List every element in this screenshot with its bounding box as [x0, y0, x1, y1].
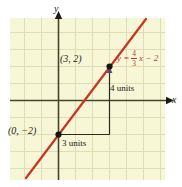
- plot-background: [10, 18, 165, 180]
- coordinate-graph-figure: [0, 0, 182, 187]
- slope-numerator: 4: [131, 50, 137, 58]
- equation-rhs: x − 2: [139, 54, 158, 63]
- point-label-0-neg2: (0, −2): [8, 126, 36, 136]
- point-0-neg2: [55, 131, 61, 137]
- slope-fraction: 4 3: [131, 50, 137, 67]
- y-axis-label: y: [54, 4, 58, 14]
- run-label: 3 units: [62, 139, 86, 148]
- graph-canvas: [0, 0, 182, 187]
- point-3-2: [106, 63, 112, 69]
- equation-label: y = 4 3 x − 2: [117, 50, 158, 67]
- slope-denominator: 3: [131, 59, 137, 67]
- point-label-3-2: (3, 2): [60, 54, 82, 64]
- x-axis-label: x: [172, 95, 176, 105]
- equation-lhs: y =: [117, 54, 129, 63]
- rise-label: 4 units: [110, 84, 134, 93]
